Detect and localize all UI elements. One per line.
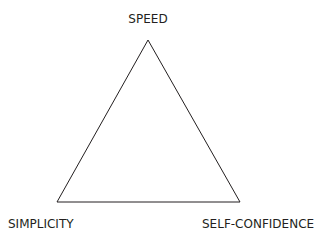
triangle-shape: [57, 40, 240, 202]
vertex-label-simplicity: SIMPLICITY: [8, 217, 74, 231]
vertex-label-self-confidence: SELF-CONFIDENCE: [202, 217, 314, 231]
vertex-label-speed: SPEED: [128, 12, 167, 26]
triangle-diagram: [0, 0, 320, 247]
